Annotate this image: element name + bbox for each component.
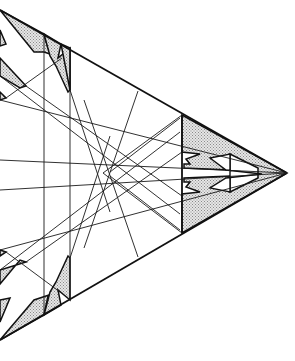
crease-diagram [0,0,295,361]
crease-m [26,86,182,196]
crease-i [70,90,110,212]
crease-k [84,91,138,248]
top-edge [0,10,287,173]
crease-o [103,115,182,173]
crease-l [84,100,138,257]
crease-h [6,252,60,292]
left-edge-shaded-wedge-1 [0,30,6,46]
bottom-edge [0,173,287,340]
left-edge-shaded-wedge-4 [0,298,10,322]
left-edge-shaded-wedge-2 [0,58,26,88]
crease-r [110,176,180,230]
left-edge-shaded-wedge-6 [0,250,6,256]
crease-j [70,136,110,258]
left-edge-shaded-wedge-3 [0,92,6,100]
diagram-canvas [0,0,295,361]
crease-f [0,132,180,270]
crease-q [110,118,180,172]
crease-b [0,173,287,250]
